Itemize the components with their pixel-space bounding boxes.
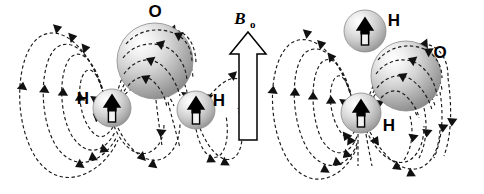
field-line xyxy=(114,124,164,154)
field-line xyxy=(444,78,451,156)
hydrogen-label: H xyxy=(388,11,400,30)
dipolar-field-figure: O H H B o xyxy=(0,0,484,194)
b0-label-subscript: o xyxy=(250,18,256,30)
molecule-left: O H H xyxy=(77,2,225,129)
b0-arrow-shape xyxy=(230,32,266,140)
field-line xyxy=(156,100,162,146)
hydrogen-label: H xyxy=(77,89,89,108)
oxygen-label: O xyxy=(433,43,446,62)
molecule-right: O H H xyxy=(341,10,447,135)
field-line xyxy=(366,134,372,166)
figure-canvas: O H H B o xyxy=(0,0,484,194)
oxygen-label: O xyxy=(148,2,161,21)
hydrogen-label: H xyxy=(383,116,395,135)
b0-label: B xyxy=(233,9,245,28)
hydrogen-label: H xyxy=(213,91,225,110)
field-line xyxy=(118,122,180,160)
field-line xyxy=(418,108,426,160)
